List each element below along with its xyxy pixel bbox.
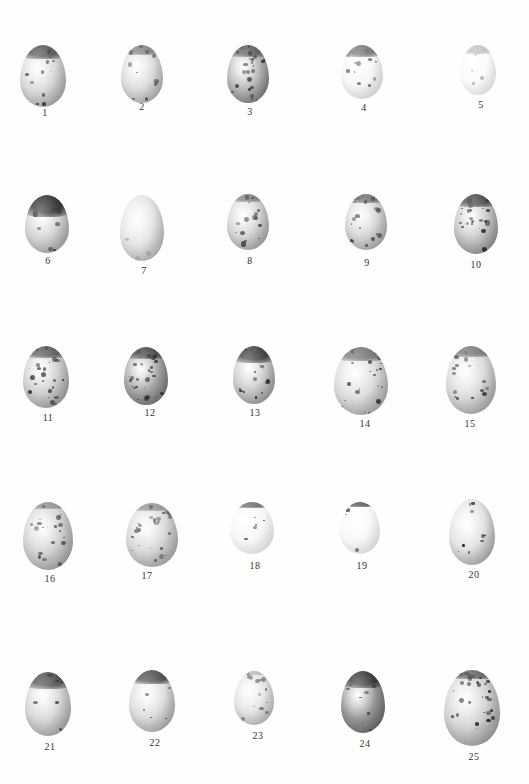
- egg-image: [444, 670, 500, 746]
- egg-plate: 1234567891011121314151617181920212223242…: [0, 0, 529, 784]
- egg-number-label: 13: [240, 407, 270, 418]
- egg-image: [334, 347, 388, 415]
- egg-number-label: 2: [127, 101, 157, 112]
- egg-speckle: [124, 198, 127, 201]
- egg-speckle: [58, 672, 60, 674]
- egg-number-label: 7: [129, 265, 159, 276]
- egg-number-label: 15: [455, 418, 485, 429]
- egg-image: [120, 195, 164, 261]
- egg-number-label: 6: [33, 255, 63, 266]
- egg-image: [340, 502, 380, 554]
- egg-image: [234, 671, 274, 725]
- egg-image: [460, 45, 496, 95]
- egg-number-label: 24: [350, 738, 380, 749]
- egg-shading: [20, 45, 66, 107]
- egg-shading: [444, 670, 500, 746]
- egg-number-label: 12: [135, 407, 165, 418]
- egg-speckle: [489, 670, 491, 672]
- egg-image: [454, 194, 498, 254]
- egg-image: [25, 672, 71, 736]
- egg-image: [25, 195, 69, 253]
- egg-speckle: [381, 348, 383, 350]
- egg-number-label: 3: [235, 106, 265, 117]
- egg-number-label: 19: [347, 560, 377, 571]
- egg-shading: [460, 45, 496, 95]
- egg-image: [345, 194, 387, 250]
- egg-image: [129, 670, 175, 732]
- egg-number-label: 8: [235, 255, 265, 266]
- egg-number-label: 21: [35, 741, 65, 752]
- egg-shading: [227, 194, 269, 250]
- egg-number-label: 25: [459, 751, 489, 762]
- egg-image: [121, 45, 163, 103]
- egg-number-label: 17: [132, 570, 162, 581]
- egg-image: [446, 346, 496, 414]
- egg-number-label: 22: [140, 737, 170, 748]
- egg-image: [227, 45, 269, 103]
- egg-image: [23, 502, 73, 570]
- egg-number-label: 11: [33, 412, 63, 423]
- egg-shading: [449, 499, 495, 565]
- egg-shading: [454, 194, 498, 254]
- egg-shading: [121, 45, 163, 103]
- egg-shading: [227, 45, 269, 103]
- egg-image: [23, 346, 69, 408]
- egg-shading: [129, 670, 175, 732]
- egg-number-label: 9: [352, 257, 382, 268]
- egg-image: [341, 671, 385, 733]
- egg-image: [230, 502, 274, 554]
- egg-shading: [23, 502, 73, 570]
- egg-image: [124, 347, 168, 405]
- egg-shading: [23, 346, 69, 408]
- egg-shading: [341, 671, 385, 733]
- egg-speckle: [483, 410, 487, 414]
- egg-number-label: 4: [349, 102, 379, 113]
- egg-number-label: 14: [350, 418, 380, 429]
- egg-shading: [126, 503, 178, 567]
- egg-shading: [234, 671, 274, 725]
- egg-shading: [124, 347, 168, 405]
- egg-number-label: 5: [466, 99, 496, 110]
- egg-image: [227, 194, 269, 250]
- egg-speckle: [455, 500, 460, 504]
- egg-number-label: 1: [30, 107, 60, 118]
- egg-image: [233, 346, 275, 404]
- egg-shading: [25, 195, 69, 253]
- egg-number-label: 16: [35, 573, 65, 584]
- egg-number-label: 20: [459, 569, 489, 580]
- egg-image: [20, 45, 66, 107]
- egg-image: [341, 45, 383, 99]
- egg-image: [126, 503, 178, 567]
- egg-number-label: 10: [461, 259, 491, 270]
- egg-shading: [341, 45, 383, 99]
- egg-shading: [233, 346, 275, 404]
- egg-shading: [340, 502, 380, 554]
- egg-number-label: 23: [243, 730, 273, 741]
- egg-speckle: [29, 730, 33, 733]
- egg-speckle: [37, 568, 38, 569]
- egg-number-label: 18: [240, 560, 270, 571]
- egg-shading: [230, 502, 274, 554]
- egg-image: [449, 499, 495, 565]
- egg-shading: [345, 194, 387, 250]
